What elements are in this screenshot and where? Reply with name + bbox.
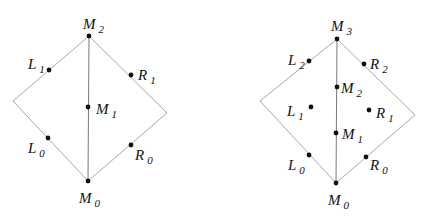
node-m1: M1 <box>86 101 117 120</box>
node-label: L1 <box>27 56 45 75</box>
middle-spine <box>336 39 337 183</box>
node-dot <box>364 155 369 160</box>
node-r2: R2 <box>362 56 389 75</box>
node-r0: R0 <box>129 143 154 166</box>
node-m0: M0 <box>78 179 101 209</box>
node-dot <box>307 59 312 64</box>
node-r1: R1 <box>129 67 156 86</box>
node-dot <box>367 108 372 113</box>
node-m2: M2 <box>82 16 105 38</box>
node-label: L0 <box>287 157 305 176</box>
node-dot <box>335 37 340 42</box>
node-label: R0 <box>134 147 153 166</box>
node-r0: R0 <box>364 155 389 176</box>
node-l0: L0 <box>27 136 50 159</box>
node-dot <box>86 105 91 110</box>
right-diamond: M3L2R2M2L1R1M1L0R0M0 <box>260 18 415 211</box>
node-label: R1 <box>375 105 394 124</box>
node-m1: M1 <box>334 126 363 145</box>
node-label: M2 <box>340 80 363 99</box>
diamond-outline <box>260 39 415 183</box>
node-dot <box>335 85 340 90</box>
node-dot <box>47 68 52 73</box>
node-dot <box>86 179 91 184</box>
node-dot <box>334 131 339 136</box>
node-m2: M2 <box>335 80 363 99</box>
node-label: R1 <box>137 67 156 86</box>
node-r1: R1 <box>367 105 394 124</box>
node-l1: L1 <box>27 56 51 75</box>
node-label: M1 <box>95 101 117 120</box>
left-diamond: M2L1R1M1L0R0M0 <box>13 16 167 209</box>
node-label: M3 <box>330 18 353 37</box>
node-dot <box>87 34 92 39</box>
node-label: L0 <box>27 140 45 159</box>
node-l0: L0 <box>287 153 311 176</box>
node-dot <box>307 153 312 158</box>
node-label: L1 <box>286 103 304 122</box>
node-label: R0 <box>369 157 388 176</box>
node-dot <box>334 181 339 186</box>
node-label: M2 <box>82 16 105 35</box>
node-label: R2 <box>369 56 388 75</box>
node-label: M0 <box>78 190 101 209</box>
node-m3: M3 <box>330 18 353 41</box>
node-l1: L1 <box>286 103 313 122</box>
node-m0: M0 <box>327 181 350 211</box>
node-dot <box>129 73 134 78</box>
node-l2: L2 <box>287 52 311 71</box>
node-dot <box>129 143 134 148</box>
node-dot <box>46 136 51 141</box>
lattice-diagrams: M2L1R1M1L0R0M0M3L2R2M2L1R1M1L0R0M0 <box>0 0 427 218</box>
node-label: M0 <box>327 192 350 211</box>
node-dot <box>362 62 367 67</box>
node-label: M1 <box>341 126 363 145</box>
node-label: L2 <box>287 52 305 71</box>
node-dot <box>309 105 314 110</box>
